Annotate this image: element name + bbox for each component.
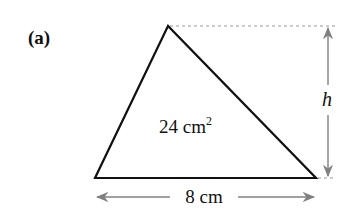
- base-label: 8 cm: [185, 186, 223, 207]
- height-dimension: h: [322, 28, 332, 176]
- area-label: 24 cm2: [159, 114, 212, 137]
- base-dimension: 8 cm: [97, 186, 314, 207]
- triangle-diagram: (a) h 24 cm2 8 cm: [0, 0, 353, 211]
- height-label: h: [322, 88, 332, 110]
- area-value: 24: [159, 116, 179, 137]
- triangle-shape: [95, 26, 316, 178]
- part-label: (a): [28, 27, 50, 49]
- area-exponent: 2: [206, 114, 212, 128]
- area-unit: cm: [183, 116, 206, 137]
